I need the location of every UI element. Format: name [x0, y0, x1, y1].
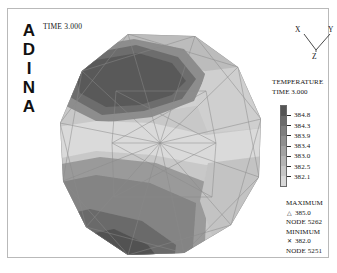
- tick-label: 384.8: [294, 111, 310, 119]
- adina-logo-letter-4: N: [23, 78, 35, 97]
- axis-y-label: Y: [328, 25, 333, 34]
- tick-label: 383.4: [294, 142, 310, 150]
- tick-dash-icon: [287, 135, 291, 136]
- colorbar-tick-1: 384.8: [287, 110, 310, 120]
- triangle-marker-icon: △: [286, 209, 292, 219]
- adina-logo-letter-5: A: [23, 97, 35, 116]
- time-label: TIME 3.000: [43, 22, 82, 31]
- adina-logo-letter-3: I: [27, 59, 32, 78]
- contour-bands: [56, 31, 271, 261]
- colorbar-cell-7: [281, 166, 286, 176]
- maximum-label: MAXIMUM: [286, 199, 337, 209]
- maximum-value: 385.0: [295, 209, 311, 219]
- colorbar-cell-5: [281, 146, 286, 156]
- maximum-node: NODE 5262: [286, 218, 337, 228]
- legend: TEMPERATURE TIME 3.000 384.8384.3383.938…: [272, 78, 337, 187]
- colorbar-tick-6: 382.5: [287, 162, 310, 172]
- cross-marker-icon: ✕: [286, 237, 292, 247]
- colorbar-cell-4: [281, 136, 286, 146]
- minimum-label: MINIMUM: [286, 228, 337, 238]
- tick-dash-icon: [287, 146, 291, 147]
- tick-label: 383.9: [294, 132, 310, 140]
- colorbar-cell-3: [281, 126, 286, 136]
- tick-dash-icon: [287, 176, 291, 177]
- extrema-block: MAXIMUM △ 385.0 NODE 5262 MINIMUM ✕ 382.…: [286, 199, 337, 256]
- tick-label: 383.0: [294, 152, 310, 160]
- tick-dash-icon: [287, 156, 291, 157]
- colorbar-tick-7: 382.1: [287, 172, 310, 182]
- colorbar-cell-1: [281, 106, 286, 116]
- colorbar-cell-2: [281, 116, 286, 126]
- minimum-value-row: ✕ 382.0: [286, 237, 337, 247]
- tick-dash-icon: [287, 166, 291, 167]
- model-contour-plot[interactable]: [56, 31, 271, 261]
- tick-label: 382.5: [294, 163, 310, 171]
- colorbar-tick-5: 383.0: [287, 151, 310, 161]
- colorbar-cell-6: [281, 156, 286, 166]
- colorbar-ticks: 384.8384.3383.9383.4383.0382.5382.1: [287, 105, 337, 187]
- tick-label: 382.1: [294, 173, 310, 181]
- tick-dash-icon: [287, 115, 291, 116]
- maximum-value-row: △ 385.0: [286, 209, 337, 219]
- colorbar-tick-4: 383.4: [287, 141, 310, 151]
- adina-logo-letter-2: D: [23, 40, 35, 59]
- axis-triad: X Y Z: [294, 25, 337, 65]
- colorbar-strip: [280, 105, 287, 187]
- plot-frame: A D I N A TIME 3.000 X Y Z: [7, 8, 329, 258]
- minimum-node: NODE 5251: [286, 247, 337, 257]
- axis-z-label: Z: [312, 52, 317, 61]
- tick-dash-icon: [287, 125, 291, 126]
- contour-mesh-svg: [56, 31, 271, 261]
- adina-logo: A D I N A: [18, 21, 40, 131]
- legend-time: TIME 3.000: [272, 88, 337, 96]
- legend-title: TEMPERATURE: [272, 78, 337, 86]
- colorbar-cell-8: [281, 176, 286, 186]
- minimum-value: 382.0: [295, 237, 311, 247]
- tick-label: 384.3: [294, 122, 310, 130]
- colorbar-tick-2: 384.3: [287, 121, 310, 131]
- axis-x-label: X: [295, 25, 300, 34]
- adina-logo-letter-1: A: [23, 21, 35, 40]
- colorbar-block: 384.8384.3383.9383.4383.0382.5382.1: [272, 105, 337, 187]
- colorbar-tick-3: 383.9: [287, 131, 310, 141]
